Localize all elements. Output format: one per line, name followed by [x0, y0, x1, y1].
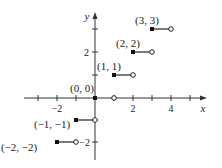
open-dot-icon [112, 96, 117, 101]
closed-dot-icon [131, 50, 135, 54]
open-dot-icon [74, 140, 79, 145]
closed-dot-icon [150, 27, 154, 31]
floor-function-chart: −2 2 4 2 −2 x y (−2, [0, 0, 222, 168]
y-axis-arrow-icon [93, 12, 98, 19]
open-dot-icon [131, 73, 136, 78]
point-label: (2, 2) [116, 37, 140, 50]
closed-dot-icon [55, 140, 59, 144]
closed-dot-icon [74, 118, 78, 122]
y-tick-label: −2 [79, 137, 90, 148]
y-axis-label: y [84, 10, 90, 22]
x-axis-label: x [200, 102, 206, 114]
open-dot-icon [93, 118, 98, 123]
x-tick-label: 2 [131, 103, 136, 114]
point-label: (−1, −1) [34, 118, 71, 131]
x-tick-label: −2 [52, 103, 63, 114]
point-label: (0, 0) [70, 82, 94, 95]
point-label: (1, 1) [97, 60, 121, 73]
x-axis-arrow-icon [200, 96, 207, 101]
point-label: (−2, −2) [1, 141, 38, 154]
x-tick-label: 4 [169, 103, 174, 114]
closed-dot-icon [112, 73, 116, 77]
open-dot-icon [169, 27, 174, 32]
point-label: (3, 3) [135, 14, 159, 27]
open-dot-icon [150, 50, 155, 55]
y-tick-label: 2 [84, 47, 89, 58]
closed-dot-icon [93, 96, 97, 100]
axes: −2 2 4 2 −2 x y [24, 10, 207, 160]
